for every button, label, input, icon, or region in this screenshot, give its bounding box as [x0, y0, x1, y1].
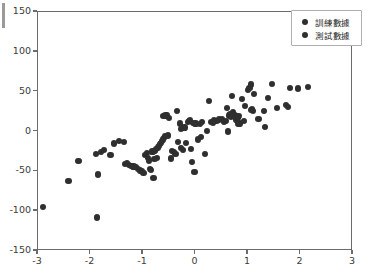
data-point — [261, 108, 267, 114]
scatter-plot-screenshot: 150100500-50-100-150 -3-2-10123 訓練數據 測試數… — [0, 0, 373, 280]
x-axis-tick — [89, 250, 90, 254]
data-point — [225, 128, 231, 134]
data-point — [206, 98, 212, 104]
x-axis-tick — [36, 250, 37, 254]
data-point — [178, 126, 184, 132]
data-point — [174, 108, 180, 114]
x-axis-tick — [299, 250, 300, 254]
legend-marker-icon-test — [302, 32, 308, 38]
data-point — [223, 118, 229, 124]
y-axis-tick-label: 100 — [0, 46, 31, 56]
data-point — [202, 151, 208, 157]
legend-label-test: 測試數據 — [315, 29, 350, 41]
data-point — [198, 134, 204, 140]
y-axis-tick-label: 50 — [0, 86, 31, 96]
data-point — [165, 132, 171, 138]
x-axis-tick-label: 1 — [232, 256, 262, 266]
data-point — [248, 81, 254, 87]
data-point — [148, 167, 154, 173]
plot-axes-frame — [37, 11, 352, 250]
x-axis-tick-label: -3 — [22, 256, 52, 266]
data-point — [274, 105, 280, 111]
x-axis-tick-label: -1 — [127, 256, 157, 266]
y-axis-tick-label: -50 — [0, 165, 31, 175]
legend-entry-test: 測試數據 — [296, 28, 357, 41]
data-point — [285, 104, 291, 110]
x-axis-tick-label: 3 — [337, 256, 367, 266]
data-point — [224, 105, 230, 111]
data-point — [94, 214, 100, 220]
legend-label-train: 訓練數據 — [315, 16, 350, 28]
data-point — [180, 147, 186, 153]
data-point — [107, 152, 113, 158]
data-point — [140, 170, 146, 176]
y-axis-tick-label: 150 — [0, 6, 31, 16]
chart-legend: 訓練數據 測試數據 — [291, 10, 362, 46]
data-point — [204, 128, 210, 134]
y-axis-tick-label: -100 — [0, 205, 31, 215]
data-point — [188, 146, 194, 152]
data-point — [269, 81, 275, 87]
data-point — [151, 156, 157, 162]
x-axis-tick — [246, 250, 247, 254]
data-point — [65, 178, 71, 184]
data-point — [210, 120, 216, 126]
data-point — [166, 115, 172, 121]
x-axis-tick-label: -2 — [75, 256, 105, 266]
data-point — [150, 175, 156, 181]
data-point — [265, 95, 271, 101]
legend-marker-icon-train — [302, 19, 308, 25]
y-axis-tick-label: -150 — [0, 245, 31, 255]
x-axis-tick — [351, 250, 352, 254]
data-point — [183, 140, 189, 146]
scatter-data-area — [38, 12, 351, 249]
data-point — [251, 91, 257, 97]
data-point — [98, 149, 104, 155]
x-axis-tick-label: 0 — [180, 256, 210, 266]
x-axis-tick — [194, 250, 195, 254]
y-axis-tick-label: 0 — [0, 126, 31, 136]
data-point — [175, 139, 181, 145]
data-point — [191, 169, 197, 175]
data-point — [75, 158, 81, 164]
data-point — [287, 85, 293, 91]
data-point — [305, 84, 311, 90]
data-point — [262, 124, 268, 130]
legend-entry-train: 訓練數據 — [296, 15, 357, 28]
data-point — [189, 159, 195, 165]
data-point — [40, 204, 46, 210]
data-point — [295, 85, 301, 91]
data-point — [255, 116, 261, 122]
data-point — [199, 119, 205, 125]
data-point — [172, 151, 178, 157]
data-point — [239, 96, 245, 102]
x-axis-tick-label: 2 — [285, 256, 315, 266]
x-axis-tick — [141, 250, 142, 254]
data-point — [229, 93, 235, 99]
data-point — [95, 171, 101, 177]
